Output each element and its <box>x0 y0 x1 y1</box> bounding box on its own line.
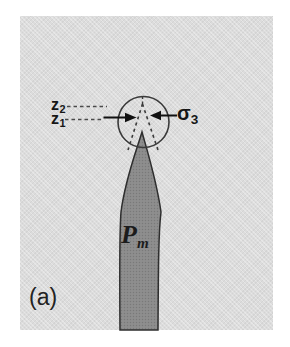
label-z1: z1 <box>51 111 66 127</box>
label-pm-subscript: m <box>137 235 149 251</box>
label-magma-pressure: Pm <box>121 222 149 248</box>
label-pm-base: P <box>121 220 137 249</box>
label-sigma3: σ3 <box>177 103 198 123</box>
panel-letter: (a) <box>29 286 57 309</box>
label-sigma3-subscript: 3 <box>191 112 199 127</box>
label-z1-base: z <box>51 110 60 127</box>
arrow-left-icon <box>150 111 177 121</box>
label-sigma3-base: σ <box>177 102 191 124</box>
figure: z2 z1 σ3 Pm (a) <box>0 0 290 347</box>
label-z1-subscript: 1 <box>60 117 67 129</box>
